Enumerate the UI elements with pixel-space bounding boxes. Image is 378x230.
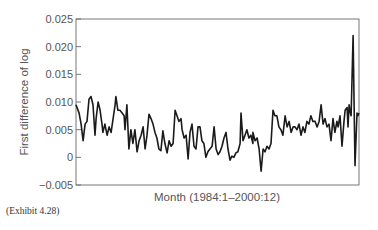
plot-frame <box>76 19 359 185</box>
y-tick-label: 0.015 <box>45 68 73 80</box>
y-tick-label: −0.005 <box>39 179 73 191</box>
y-tick-label: 0.010 <box>45 96 73 108</box>
y-tick-label: 0.005 <box>45 124 73 136</box>
y-axis-tick-labels: −0.00500.0050.0100.0150.0200.025 <box>39 13 73 191</box>
line-chart: −0.00500.0050.0100.0150.0200.025 First d… <box>0 0 378 230</box>
exhibit-caption: (Exhibit 4.28) <box>6 206 59 216</box>
y-tick-label: 0 <box>67 151 73 163</box>
y-tick-label: 0.020 <box>45 41 73 53</box>
x-axis-title: Month (1984:1–2000:12) <box>154 191 280 203</box>
data-series-line <box>76 36 359 172</box>
y-axis-title: First difference of log <box>18 48 30 155</box>
y-tick-label: 0.025 <box>45 13 73 25</box>
y-axis-ticks <box>76 19 81 185</box>
